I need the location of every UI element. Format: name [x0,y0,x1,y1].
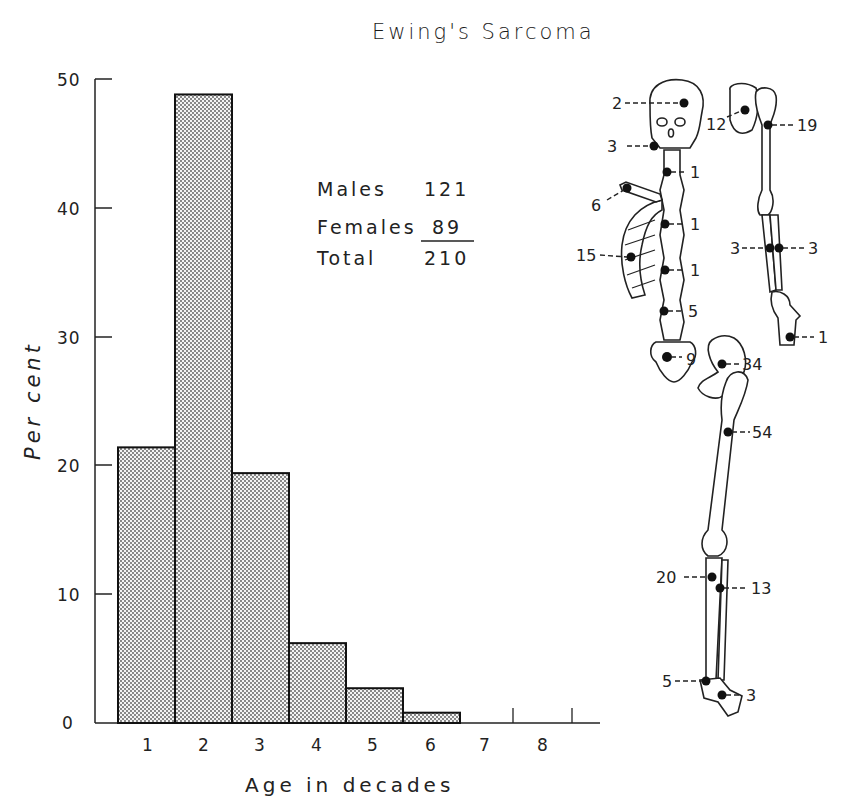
site-fibula: 13 [751,579,771,598]
y-tick-50: 50 [57,70,81,90]
site-clavicle: 6 [591,196,601,215]
site-lumbar: 5 [688,302,698,321]
x-tick-1: 1 [142,735,154,755]
legend-males-label: Males [317,178,387,200]
legend-males-value: 121 [424,178,469,200]
bar-decade-5 [346,688,403,723]
x-tick-7: 7 [479,735,491,755]
x-tick-4: 4 [311,735,323,755]
site-thoracic-upper: 1 [690,215,700,234]
skeleton-axial: 2 3 1 6 1 15 1 5 9 [576,80,703,382]
site-skull: 2 [612,94,622,113]
bar-decade-1 [118,447,175,723]
skeleton-arm: 12 19 3 3 1 [706,84,828,347]
site-calcaneus: 5 [662,672,672,691]
bar-decade-3 [232,473,289,723]
site-humerus: 19 [797,116,817,135]
humerus-icon [755,88,776,215]
site-scapula: 12 [706,115,726,134]
legend-total-label: Total [316,247,376,269]
site-sacrum: 9 [686,350,696,369]
x-tick-5: 5 [367,735,379,755]
site-ulna: 3 [730,239,740,258]
site-femur: 54 [752,423,772,442]
chart-canvas: 50 40 30 20 10 0 Per cent 1 2 3 4 5 6 7 … [0,0,844,809]
y-tick-30: 30 [57,328,81,348]
y-tick-40: 40 [57,199,81,219]
site-ribs: 15 [576,246,596,265]
legend-females-label: Females [317,216,417,238]
site-hand: 1 [818,328,828,347]
y-tick-10: 10 [57,585,81,605]
bar-decade-2 [175,94,232,723]
site-thoracic-lower: 1 [690,261,700,280]
x-tick-3: 3 [254,735,266,755]
skeleton-leg: 34 54 20 13 5 3 [656,336,772,716]
site-foot: 3 [746,686,756,705]
x-axis-label: Age in decades [245,773,454,797]
femur-icon [702,372,748,556]
ribcage-icon [622,200,662,298]
legend-females-value: 89 [432,216,462,238]
legend-total-value: 210 [424,247,469,269]
legend-table: Males 121 Females 89 Total 210 [316,178,474,269]
x-tick-8: 8 [537,735,549,755]
bars-group [118,94,460,723]
y-axis: 50 40 30 20 10 0 [57,70,112,733]
y-tick-0: 0 [62,713,74,733]
site-tibia: 20 [656,568,676,587]
y-axis-label: Per cent [21,341,45,460]
x-tick-2: 2 [198,735,210,755]
bar-decade-6 [403,713,460,723]
site-pelvis: 34 [742,355,762,374]
x-tick-6: 6 [425,735,437,755]
site-cervical: 1 [690,163,700,182]
site-radius: 3 [808,239,818,258]
y-tick-20: 20 [57,456,81,476]
skull-icon [650,80,703,148]
site-mandible: 3 [607,137,617,156]
bar-decade-4 [289,643,346,723]
